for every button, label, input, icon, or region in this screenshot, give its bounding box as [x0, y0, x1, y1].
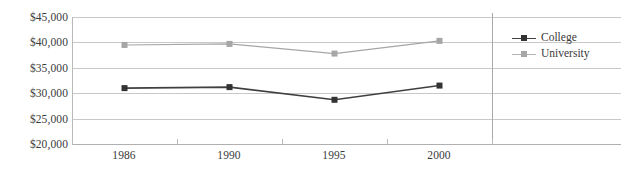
legend-label-university: University	[541, 48, 590, 60]
line-chart: $45,000 $40,000 $35,000 $30,000 $25,000 …	[0, 0, 629, 173]
data-point-university-1995[interactable]	[332, 51, 338, 57]
data-point-university-1986[interactable]	[122, 42, 128, 48]
series-college	[122, 83, 443, 103]
legend-marker-college-icon	[512, 33, 536, 43]
data-point-college-1986[interactable]	[122, 85, 128, 91]
series-plot-area	[0, 0, 629, 173]
legend-item-university[interactable]: University	[512, 47, 590, 61]
series-line-college	[125, 86, 440, 100]
legend-item-college[interactable]: College	[512, 31, 590, 45]
series-line-university	[125, 41, 440, 54]
data-point-college-1990[interactable]	[227, 84, 233, 90]
legend-label-college: College	[541, 32, 577, 44]
data-point-university-1990[interactable]	[227, 41, 233, 47]
data-point-college-2000[interactable]	[437, 83, 443, 89]
legend-marker-university-icon	[512, 49, 536, 59]
data-point-college-1995[interactable]	[332, 97, 338, 103]
series-university	[122, 38, 443, 57]
chart-legend: College University	[512, 31, 590, 63]
data-point-university-2000[interactable]	[437, 38, 443, 44]
